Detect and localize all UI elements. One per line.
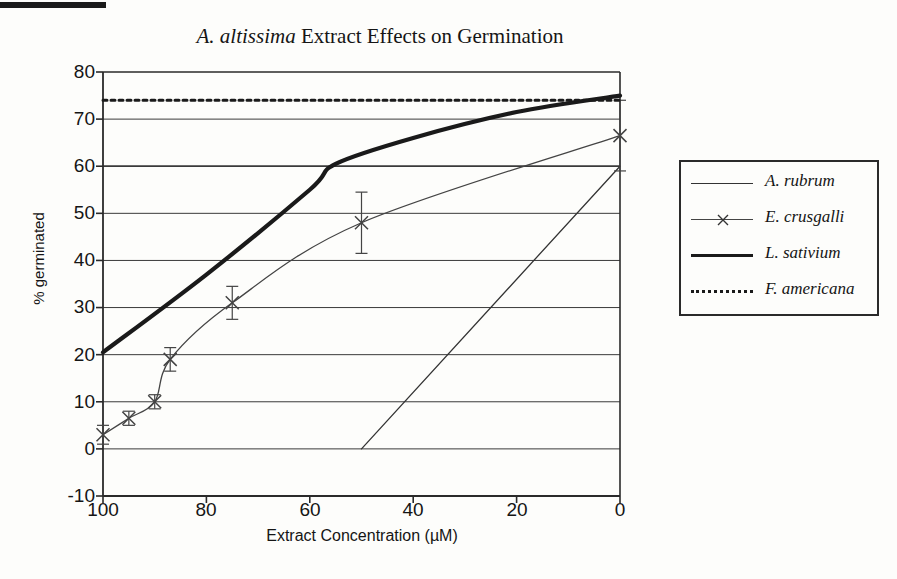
figure-canvas: A. altissima Extract Effects on Germinat… [0,0,897,579]
legend-label-e-crusgalli: E. crusgalli [765,207,844,227]
legend-item-l-sativium[interactable]: L. sativium [681,240,877,270]
legend: A. rubrum E. crusgalli L. sativium F. am… [679,160,879,316]
legend-label-l-sativium: L. sativium [765,243,841,263]
legend-label-a-rubrum: A. rubrum [765,171,835,191]
x-marker-icon [715,212,731,228]
legend-label-f-americana: F. americana [765,279,854,299]
thin-line-key-icon [691,183,753,184]
dotted-line-key-icon [691,290,753,293]
legend-item-a-rubrum[interactable]: A. rubrum [681,168,877,198]
legend-item-f-americana[interactable]: F. americana [681,276,877,306]
legend-item-e-crusgalli[interactable]: E. crusgalli [681,204,877,234]
series-line-e-crusgalli [103,136,620,435]
thick-line-key-icon [691,254,753,257]
